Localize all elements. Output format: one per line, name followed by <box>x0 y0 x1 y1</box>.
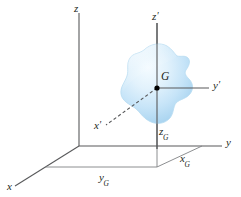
center-of-mass-point <box>154 85 159 90</box>
x-g-subscript: G <box>185 160 190 169</box>
projection-construction-group <box>45 146 202 167</box>
y-axis-label: y <box>226 137 231 148</box>
y-prime-mark: ′ <box>218 79 220 90</box>
z-prime-mark: ′ <box>156 10 158 21</box>
x-axis-label: x <box>7 181 12 192</box>
center-of-mass-label: G <box>161 71 169 83</box>
figure-container: z z′ G y′ x′ zG y xG yG x <box>0 0 241 197</box>
z-axis-label: z <box>74 3 78 14</box>
coordinate-system-diagram <box>0 0 241 197</box>
x-axis-line <box>15 146 79 186</box>
y-g-label: yG <box>99 172 109 186</box>
z-g-subscript: G <box>163 133 168 142</box>
x-prime-axis-label: x′ <box>94 120 101 131</box>
y-g-subscript: G <box>104 179 109 188</box>
x-prime-mark: ′ <box>99 119 101 130</box>
y-prime-axis-label: y′ <box>213 80 220 91</box>
z-g-label: zG <box>159 126 169 140</box>
z-prime-axis-label: z′ <box>152 11 158 22</box>
x-g-label: xG <box>180 153 190 167</box>
global-axes-group <box>15 13 222 186</box>
